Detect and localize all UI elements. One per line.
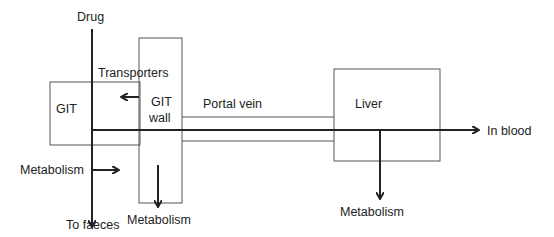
to-faeces-label: To faeces <box>66 219 120 232</box>
portal-vein-label: Portal vein <box>203 98 262 111</box>
git-wall-label-2: wall <box>149 112 171 125</box>
metabolism-liver-label: Metabolism <box>340 206 404 219</box>
transporters-label: Transporters <box>98 67 168 80</box>
metabolism-left-label: Metabolism <box>20 164 84 177</box>
metabolism-wall-label: Metabolism <box>127 214 191 227</box>
drug-absorption-diagram: Drug Transporters GIT GIT wall Portal ve… <box>0 0 554 237</box>
diagram-graphics <box>0 0 554 237</box>
liver-label: Liver <box>355 98 382 111</box>
git-label: GIT <box>56 103 77 116</box>
liver-box <box>334 69 440 161</box>
git-wall-label-1: GIT <box>151 96 172 109</box>
drug-label: Drug <box>77 11 104 24</box>
in-blood-label: In blood <box>487 125 531 138</box>
